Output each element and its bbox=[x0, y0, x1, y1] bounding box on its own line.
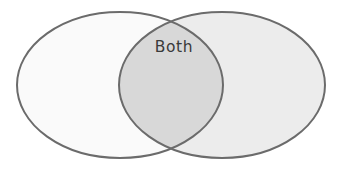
intersection-label: Both bbox=[155, 38, 193, 56]
venn-diagram-canvas: Both bbox=[0, 0, 343, 170]
venn-diagram-svg: Both bbox=[0, 0, 343, 170]
